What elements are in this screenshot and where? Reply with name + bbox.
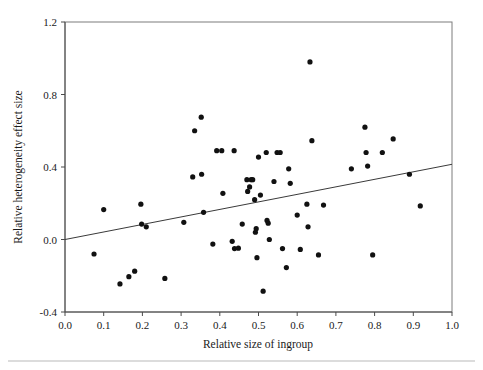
data-point	[321, 202, 326, 207]
data-point	[101, 207, 106, 212]
x-tick-label: 0.2	[136, 319, 150, 331]
data-point	[232, 148, 237, 153]
data-point	[199, 172, 204, 177]
data-point	[380, 150, 385, 155]
data-point	[247, 184, 252, 189]
data-point	[210, 241, 215, 246]
data-point	[363, 150, 368, 155]
x-tick-label: 0.7	[329, 319, 343, 331]
data-point	[254, 255, 259, 260]
data-point	[138, 202, 143, 207]
data-point	[407, 172, 412, 177]
x-tick-label: 0.5	[252, 319, 266, 331]
y-tick-label: 0.0	[43, 234, 57, 246]
data-point	[305, 224, 310, 229]
data-point	[139, 221, 144, 226]
x-tick-label: 0.4	[213, 319, 227, 331]
x-tick-label: 0.8	[368, 319, 382, 331]
data-point	[240, 221, 245, 226]
data-point	[298, 247, 303, 252]
data-point	[201, 210, 206, 215]
data-point	[280, 246, 285, 251]
data-point	[245, 189, 250, 194]
data-point	[264, 150, 269, 155]
data-point	[192, 128, 197, 133]
data-point	[295, 212, 300, 217]
data-point	[316, 252, 321, 257]
data-point	[190, 174, 195, 179]
data-point	[304, 202, 309, 207]
data-point	[309, 138, 314, 143]
data-point	[365, 163, 370, 168]
data-point	[286, 166, 291, 171]
data-point	[418, 203, 423, 208]
data-point	[117, 281, 122, 286]
x-tick-label: 0.0	[58, 319, 72, 331]
data-point	[220, 191, 225, 196]
data-point	[181, 220, 186, 225]
chart-canvas: 1.20.80.40.0-0.4 0.00.10.20.30.40.50.60.…	[0, 0, 483, 370]
data-point	[214, 148, 219, 153]
data-point	[132, 269, 137, 274]
figure-background	[0, 0, 483, 370]
data-point	[267, 237, 272, 242]
data-point	[252, 197, 257, 202]
data-point	[230, 239, 235, 244]
x-tick-label: 0.9	[406, 319, 420, 331]
data-point	[266, 221, 271, 226]
data-point	[250, 177, 255, 182]
data-point	[91, 251, 96, 256]
data-point	[362, 125, 367, 130]
x-axis-label: Relative size of ingroup	[203, 338, 313, 351]
data-point	[199, 115, 204, 120]
x-tick-label: 1.0	[445, 319, 459, 331]
data-point	[307, 59, 312, 64]
y-tick-label: 0.4	[43, 161, 57, 173]
x-tick-label: 0.3	[174, 319, 188, 331]
data-point	[256, 154, 261, 159]
data-point	[126, 274, 131, 279]
y-tick-label: 0.8	[43, 89, 57, 101]
y-tick-label: 1.2	[43, 16, 57, 28]
data-point	[258, 192, 263, 197]
data-point	[391, 136, 396, 141]
data-point	[261, 289, 266, 294]
data-point	[288, 181, 293, 186]
y-axis-label: Relative heterogeneity effect size	[12, 90, 25, 243]
data-point	[236, 246, 241, 251]
data-point	[162, 276, 167, 281]
x-tick-label: 0.6	[290, 319, 304, 331]
data-point	[370, 252, 375, 257]
scatter-plot-figure: 1.20.80.40.0-0.4 0.00.10.20.30.40.50.60.…	[0, 0, 483, 370]
x-tick-label: 0.1	[97, 319, 111, 331]
data-point	[271, 179, 276, 184]
data-point	[144, 224, 149, 229]
data-point	[349, 166, 354, 171]
data-point	[219, 148, 224, 153]
y-tick-label: -0.4	[40, 306, 58, 318]
data-point	[254, 226, 259, 231]
data-point	[278, 150, 283, 155]
data-point	[284, 265, 289, 270]
